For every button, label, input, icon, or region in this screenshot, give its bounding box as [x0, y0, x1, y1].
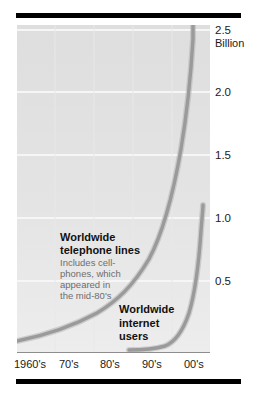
plot-canvas [17, 25, 210, 352]
annotation-internet-users: Worldwide internet users [119, 303, 174, 344]
y-tick-2-5: 2.5 Billion [215, 24, 244, 50]
telephone-annotation-sub2: phones, which [60, 268, 140, 279]
x-tick-00s: 00's [184, 357, 204, 371]
telephone-annotation-sub4: the mid-80's [60, 290, 140, 301]
x-axis-labels: 1960's 70's 80's 90's 00's [0, 357, 257, 373]
y-tick-0-5: 0.5 [215, 275, 231, 288]
y-tick-2-5-value: 2.5 [215, 24, 231, 36]
x-tick-90s: 90's [142, 357, 162, 371]
x-axis-line [17, 352, 210, 353]
telephone-annotation-sub3: appeared in [60, 279, 140, 290]
y-tick-2-0: 2.0 [215, 86, 231, 99]
x-tick-70s: 70's [59, 357, 79, 371]
telephone-annotation-line2: telephone lines [60, 244, 140, 257]
top-rule-bar [16, 13, 241, 18]
bottom-rule-bar [16, 379, 241, 384]
y-axis-labels: 2.5 Billion 2.0 1.5 1.0 0.5 [215, 0, 257, 398]
internet-annotation-line3: users [119, 330, 174, 344]
x-tick-80s: 80's [100, 357, 120, 371]
telephone-annotation-line1: Worldwide [60, 231, 140, 244]
y-axis-unit-label: Billion [215, 37, 244, 50]
internet-annotation-line2: internet [119, 317, 174, 331]
x-tick-1960s: 1960's [14, 357, 46, 371]
internet-annotation-line1: Worldwide [119, 303, 174, 317]
plot-area: Worldwide telephone lines Includes cell-… [17, 25, 210, 352]
telephone-internet-growth-chart: Worldwide telephone lines Includes cell-… [0, 0, 257, 398]
annotation-telephone-lines: Worldwide telephone lines Includes cell-… [60, 231, 140, 301]
y-tick-1-5: 1.5 [215, 149, 231, 162]
y-tick-1-0: 1.0 [215, 212, 231, 225]
telephone-annotation-sub1: Includes cell- [60, 257, 140, 268]
